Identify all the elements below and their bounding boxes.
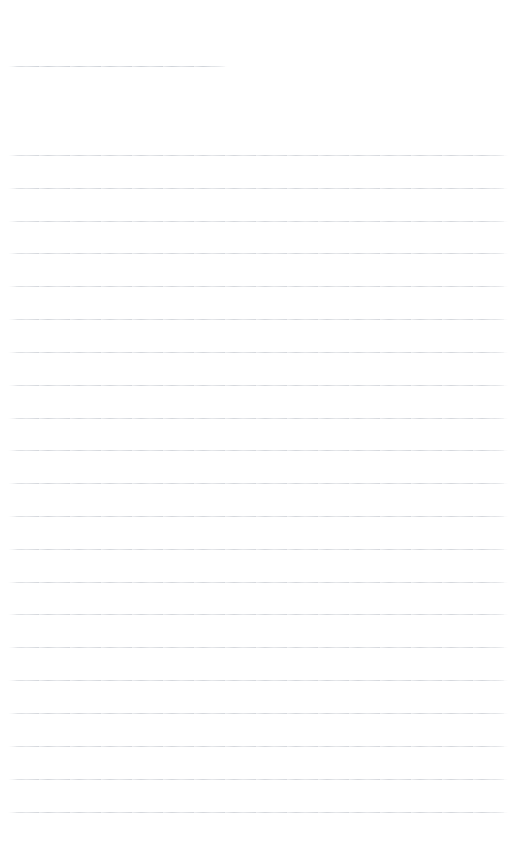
rule-ink-variation <box>8 319 508 320</box>
ruled-line <box>8 582 508 583</box>
rule-ink-variation <box>8 286 508 287</box>
ruled-line <box>8 746 508 747</box>
ruled-line <box>8 385 508 386</box>
rule-ink-variation <box>8 352 508 353</box>
ruled-line <box>8 779 508 780</box>
ruled-line <box>8 483 508 484</box>
rule-ink-variation <box>8 516 508 517</box>
rule-ink-variation <box>8 418 508 419</box>
rule-ink-variation <box>8 385 508 386</box>
ruled-line <box>8 352 508 353</box>
ruled-line <box>8 647 508 648</box>
ruled-line <box>8 221 508 222</box>
rule-ink-variation <box>8 483 508 484</box>
rule-ink-variation <box>8 614 508 615</box>
ruled-line <box>8 614 508 615</box>
ruled-line <box>8 188 508 189</box>
rule-ink-variation <box>8 221 508 222</box>
rule-ink-variation <box>8 746 508 747</box>
ruled-line <box>8 516 508 517</box>
rule-ink-variation <box>8 582 508 583</box>
rule-ink-variation <box>8 450 508 451</box>
rule-ink-variation <box>8 155 508 156</box>
rule-ink-variation <box>8 66 227 67</box>
ruled-paper-page <box>0 0 525 865</box>
rule-ink-variation <box>8 812 508 813</box>
ruled-line <box>8 155 508 156</box>
ruled-line <box>8 418 508 419</box>
ruled-line <box>8 253 508 254</box>
rule-ink-variation <box>8 680 508 681</box>
rule-ink-variation <box>8 253 508 254</box>
rule-ink-variation <box>8 713 508 714</box>
ruled-line <box>8 713 508 714</box>
rule-ink-variation <box>8 779 508 780</box>
ruled-line <box>8 286 508 287</box>
rule-ink-variation <box>8 647 508 648</box>
ruled-line <box>8 450 508 451</box>
ruled-line <box>8 319 508 320</box>
ruled-line <box>8 812 508 813</box>
rule-ink-variation <box>8 188 508 189</box>
writing-area[interactable] <box>0 0 525 865</box>
title-underline <box>8 66 227 67</box>
rule-ink-variation <box>8 549 508 550</box>
ruled-line <box>8 549 508 550</box>
ruled-line <box>8 680 508 681</box>
